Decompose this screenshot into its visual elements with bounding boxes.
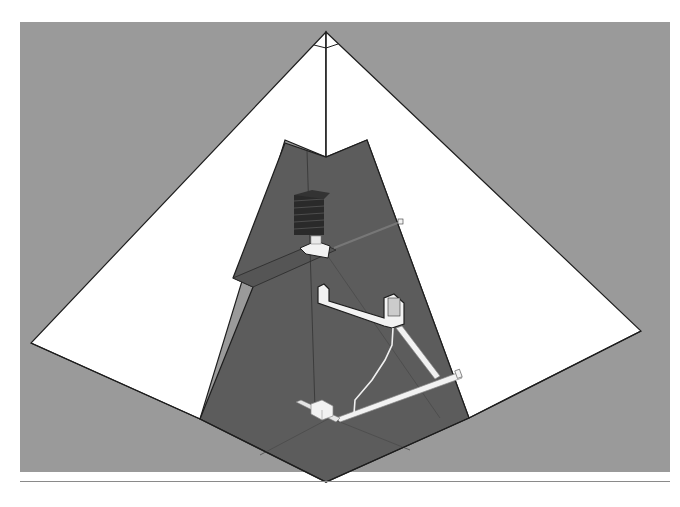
gallery-end-grooves	[388, 298, 400, 316]
bottom-divider	[20, 481, 670, 482]
pyramid-cutaway-diagram	[0, 0, 680, 507]
air-shaft-exit	[398, 219, 403, 224]
kings-chamber-top	[311, 236, 321, 244]
